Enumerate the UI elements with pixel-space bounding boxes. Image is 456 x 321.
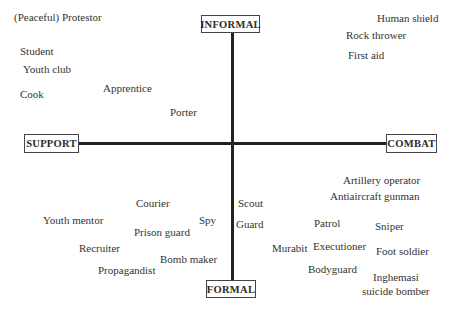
role-label: Human shield (377, 12, 438, 25)
role-label: Bomb maker (160, 253, 217, 266)
role-label: (Peaceful) Protestor (14, 11, 102, 24)
role-label: Spy (199, 214, 216, 227)
role-label: Propagandist (98, 264, 155, 277)
role-label: First aid (348, 49, 384, 62)
axis-label-combat: COMBAT (386, 134, 437, 153)
role-label: Guard (236, 218, 264, 231)
axis-label-formal: FORMAL (206, 280, 256, 298)
role-label: Foot soldier (376, 245, 429, 258)
role-label: suicide bomber (362, 285, 430, 298)
role-label: Porter (170, 106, 197, 119)
role-label: Sniper (375, 220, 404, 233)
role-label: Antiaircraft gunman (330, 190, 420, 203)
role-label: Executioner (313, 240, 366, 253)
axis-label-informal: INFORMAL (201, 15, 260, 33)
role-label: Prison guard (134, 226, 190, 239)
role-label: Student (20, 45, 54, 58)
role-label: Recruiter (79, 242, 120, 255)
role-label: Courier (136, 197, 170, 210)
role-label: Apprentice (103, 82, 152, 95)
role-label: Scout (238, 197, 263, 210)
role-label: Youth club (23, 63, 71, 76)
role-label: Inghemasi (373, 271, 419, 284)
role-label: Bodyguard (308, 263, 357, 276)
role-label: Cook (20, 88, 44, 101)
role-label: Youth mentor (43, 214, 103, 227)
role-label: Murabit (272, 242, 307, 255)
axis-label-support: SUPPORT (24, 134, 79, 153)
role-label: Rock thrower (346, 29, 406, 42)
role-label: Patrol (314, 217, 340, 230)
role-label: Artillery operator (343, 174, 420, 187)
vertical-axis-line (231, 32, 234, 281)
